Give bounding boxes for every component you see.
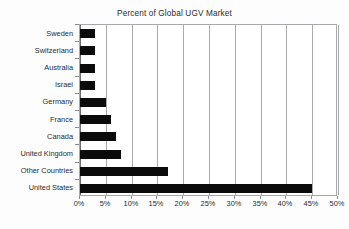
bar-row bbox=[80, 62, 336, 74]
y-axis-label: France bbox=[0, 114, 76, 123]
y-tick-mark bbox=[75, 127, 79, 128]
y-axis-label: Australia bbox=[0, 63, 76, 72]
bar-row bbox=[80, 28, 336, 40]
x-axis-label: 45% bbox=[304, 199, 319, 208]
bar-row bbox=[80, 182, 336, 194]
x-tick-mark-30 bbox=[234, 196, 235, 199]
x-axis-label: 15% bbox=[149, 199, 164, 208]
y-axis-label: Switzerland bbox=[0, 45, 76, 54]
y-tick-mark bbox=[75, 179, 79, 180]
bar bbox=[80, 81, 95, 90]
bars-layer bbox=[80, 25, 336, 195]
bar bbox=[80, 46, 95, 55]
bar-chart: Percent of Global UGV Market SwedenSwitz… bbox=[0, 0, 349, 229]
x-tick-mark-25 bbox=[208, 196, 209, 199]
bar-row bbox=[80, 79, 336, 91]
bar-row bbox=[80, 148, 336, 160]
y-tick-mark bbox=[75, 162, 79, 163]
x-tick-mark-20 bbox=[182, 196, 183, 199]
bar-row bbox=[80, 114, 336, 126]
y-axis-label: Germany bbox=[0, 97, 76, 106]
bar-row bbox=[80, 165, 336, 177]
y-axis-label: United States bbox=[0, 183, 76, 192]
x-tick-mark-0 bbox=[79, 196, 80, 199]
gridline-50 bbox=[338, 25, 339, 195]
bar bbox=[80, 167, 168, 176]
y-tick-mark bbox=[75, 110, 79, 111]
x-axis-tick-labels: 0%5%10%15%20%25%30%35%40%45%50% bbox=[0, 199, 349, 215]
bar bbox=[80, 132, 116, 141]
y-tick-mark bbox=[75, 41, 79, 42]
y-tick-mark bbox=[75, 144, 79, 145]
x-tick-mark-5 bbox=[105, 196, 106, 199]
bar bbox=[80, 98, 106, 107]
x-axis-label: 50% bbox=[330, 199, 345, 208]
x-axis-label: 20% bbox=[175, 199, 190, 208]
y-tick-mark bbox=[75, 93, 79, 94]
x-axis-label: 25% bbox=[201, 199, 216, 208]
bar bbox=[80, 184, 312, 193]
x-tick-mark-35 bbox=[260, 196, 261, 199]
y-axis-label: Other Countries bbox=[0, 166, 76, 175]
y-tick-mark bbox=[75, 58, 79, 59]
y-axis-label: Canada bbox=[0, 131, 76, 140]
x-axis-label: 10% bbox=[124, 199, 139, 208]
x-tick-mark-45 bbox=[311, 196, 312, 199]
bar bbox=[80, 29, 95, 38]
y-axis-label: Sweden bbox=[0, 28, 76, 37]
x-axis-label: 30% bbox=[227, 199, 242, 208]
x-axis-label: 5% bbox=[100, 199, 111, 208]
x-tick-mark-40 bbox=[285, 196, 286, 199]
x-axis-label: 40% bbox=[278, 199, 293, 208]
y-axis-category-labels: SwedenSwitzerlandAustraliaIsraelGermanyF… bbox=[0, 24, 76, 196]
x-axis-label: 0% bbox=[74, 199, 85, 208]
bar-row bbox=[80, 131, 336, 143]
y-tick-mark bbox=[75, 24, 79, 25]
x-tick-mark-10 bbox=[131, 196, 132, 199]
y-axis-label: United Kingdom bbox=[0, 149, 76, 158]
bar bbox=[80, 115, 111, 124]
chart-title: Percent of Global UGV Market bbox=[0, 9, 349, 18]
bar-row bbox=[80, 96, 336, 108]
bar-row bbox=[80, 45, 336, 57]
x-tick-mark-50 bbox=[337, 196, 338, 199]
x-tick-mark-15 bbox=[156, 196, 157, 199]
y-axis-label: Israel bbox=[0, 80, 76, 89]
y-tick-mark bbox=[75, 76, 79, 77]
plot-area bbox=[79, 24, 337, 196]
bar bbox=[80, 64, 95, 73]
x-axis-label: 35% bbox=[253, 199, 268, 208]
bar bbox=[80, 150, 121, 159]
